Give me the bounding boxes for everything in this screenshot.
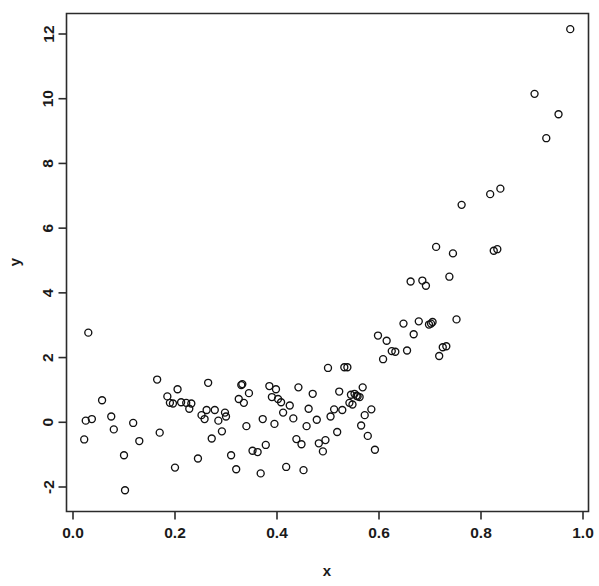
x-tick-label: 0.0 <box>62 524 84 541</box>
figure-background <box>0 0 599 586</box>
y-tick-label: 4 <box>40 288 57 297</box>
y-tick-label: 10 <box>40 90 57 107</box>
x-tick-label: 0.8 <box>470 524 492 541</box>
scatter-plot-figure: -2024681012 0.00.20.40.60.81.0 x y <box>0 0 599 586</box>
y-tick-label: 2 <box>40 353 57 362</box>
y-tick-label: -2 <box>40 480 57 494</box>
x-axis-label: x <box>323 562 332 579</box>
y-tick-label: 0 <box>40 418 57 427</box>
y-axis-label: y <box>6 257 23 266</box>
x-tick-label: 1.0 <box>572 524 594 541</box>
x-tick-label: 0.2 <box>164 524 186 541</box>
x-tick-label: 0.4 <box>266 524 288 541</box>
y-tick-label: 8 <box>40 159 57 168</box>
x-tick-label: 0.6 <box>368 524 390 541</box>
y-tick-label: 6 <box>40 223 57 232</box>
y-tick-label: 12 <box>40 25 57 42</box>
